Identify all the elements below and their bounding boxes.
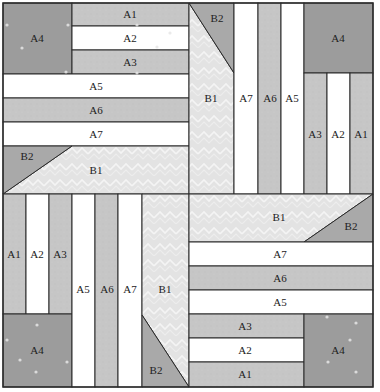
star-icon — [354, 370, 357, 373]
star-icon — [66, 23, 69, 26]
piece-label: B2 — [345, 220, 358, 232]
piece-label: A1 — [123, 8, 136, 20]
star-icon — [326, 360, 329, 363]
star-icon — [135, 71, 138, 74]
star-icon — [65, 360, 68, 363]
piece-label: A4 — [30, 32, 44, 44]
piece-label: A3 — [238, 320, 252, 332]
piece-label: B2 — [150, 364, 163, 376]
star-icon — [35, 323, 38, 326]
piece-label: A2 — [238, 344, 251, 356]
star-icon — [18, 358, 21, 361]
piece-label: A4 — [30, 344, 44, 356]
star-icon — [5, 338, 8, 341]
piece-label: A6 — [89, 104, 103, 116]
star-icon — [348, 338, 351, 341]
star-icon — [135, 23, 138, 26]
piece-label: A2 — [123, 32, 136, 44]
quilt-pieces — [3, 3, 373, 387]
piece-label: A6 — [100, 283, 114, 295]
star-icon — [354, 321, 357, 324]
piece-label: B2 — [21, 150, 34, 162]
piece-label: A4 — [331, 344, 345, 356]
star-icon — [34, 370, 37, 373]
piece-label: A1 — [238, 368, 251, 380]
star-icon — [64, 70, 67, 73]
piece-label: A3 — [308, 128, 322, 140]
star-icon — [5, 23, 8, 26]
piece-label: A7 — [89, 128, 103, 140]
piece-label: A6 — [273, 272, 287, 284]
piece-label: A7 — [273, 248, 287, 260]
piece-label: A5 — [89, 80, 103, 92]
piece-label: A7 — [123, 283, 137, 295]
piece-label: B1 — [205, 92, 218, 104]
piece-label: A5 — [273, 296, 287, 308]
star-icon — [168, 31, 171, 34]
star-icon — [325, 315, 328, 318]
piece-label: A1 — [354, 128, 367, 140]
piece-label: A1 — [7, 248, 20, 260]
piece-label: A2 — [331, 128, 344, 140]
star-icon — [155, 45, 158, 48]
piece-label: B2 — [211, 12, 224, 24]
piece-label: A3 — [123, 56, 137, 68]
piece-label: A3 — [53, 248, 67, 260]
piece-label: B1 — [159, 283, 172, 295]
piece-label: A5 — [285, 92, 299, 104]
piece-label: A6 — [263, 92, 277, 104]
piece-label: A7 — [239, 92, 253, 104]
piece-label: B1 — [90, 164, 103, 176]
quilt-block-diagram: A4A1A2A3A5A6A7B1B2B1B2A7A6A5A4A3A2A1A1A2… — [0, 0, 380, 392]
piece-label: B1 — [273, 211, 286, 223]
star-icon — [20, 46, 23, 49]
piece-label: A5 — [76, 283, 90, 295]
piece-label: A4 — [331, 32, 345, 44]
piece-label: A2 — [30, 248, 43, 260]
